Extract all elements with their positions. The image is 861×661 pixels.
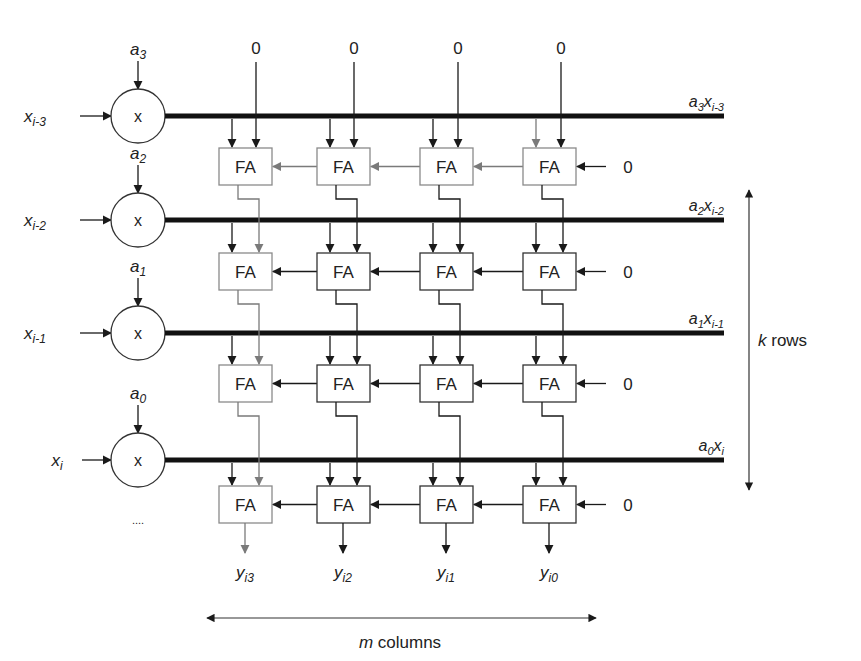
full-adder-cell: FA <box>219 365 272 402</box>
symbol: x <box>50 451 60 470</box>
subscript: 1 <box>139 265 146 279</box>
subscript: i0 <box>549 571 559 585</box>
columns-text: columns <box>373 633 441 652</box>
symbol: a <box>130 257 139 276</box>
symbol: a <box>689 197 698 214</box>
carry-in-zero-label: 0 <box>623 263 632 282</box>
subscript: i3 <box>245 571 255 585</box>
full-adder-cell: FA <box>219 253 272 290</box>
full-adder-label: FA <box>333 375 354 394</box>
full-adder-cell: FA <box>317 148 370 185</box>
subscript: 2 <box>138 152 146 166</box>
subscript: i <box>722 445 725 457</box>
multiply-symbol: x <box>134 325 142 342</box>
rows-text: rows <box>767 331 808 350</box>
product-label: a1xi-1 <box>689 310 724 330</box>
k-rows-label: k rows <box>758 331 807 350</box>
multiply-symbol: x <box>134 212 142 229</box>
zero-input-label: 0 <box>251 39 260 58</box>
array-multiplier-diagram: 0000a3xi-3xa3xi-3FAFAFAFA0a2xi-2xa2xi-2F… <box>0 0 861 661</box>
sum-path-arrow <box>336 290 357 364</box>
carry-in-zero-label: 0 <box>623 375 632 394</box>
symbol: a <box>699 437 708 454</box>
full-adder-cell: FA <box>523 253 576 290</box>
output-label: yi0 <box>539 563 558 585</box>
output-label: yi1 <box>436 563 455 585</box>
zero-input-label: 0 <box>556 39 565 58</box>
full-adder-cell: FA <box>523 148 576 185</box>
subscript: i2 <box>343 571 353 585</box>
product-label: a0xi <box>699 437 725 457</box>
output-label: yi3 <box>235 563 254 585</box>
full-adder-cell: FA <box>420 253 473 290</box>
subscript: i-1 <box>33 332 46 346</box>
subscript: i-2 <box>33 219 47 233</box>
symbol: x <box>23 324 33 343</box>
symbol: a <box>130 384 139 403</box>
input-sample-label: xi <box>50 451 63 473</box>
full-adder-label: FA <box>539 496 560 515</box>
subscript: i-3 <box>33 115 47 129</box>
full-adder-label: FA <box>436 375 457 394</box>
product-label: a2xi-2 <box>689 197 724 217</box>
sum-path-arrow <box>542 290 563 364</box>
coefficient-label: a0 <box>130 384 146 406</box>
full-adder-label: FA <box>436 158 457 177</box>
carry-in-zero-label: 0 <box>623 158 632 177</box>
subscript: i-1 <box>712 318 724 330</box>
subscript: i-2 <box>712 205 724 217</box>
full-adder-cell: FA <box>523 486 576 523</box>
full-adder-cell: FA <box>317 486 370 523</box>
symbol: a <box>689 93 698 110</box>
output-label: yi2 <box>333 563 352 585</box>
subscript: i1 <box>446 571 455 585</box>
full-adder-label: FA <box>333 496 354 515</box>
product-label: a3xi-3 <box>689 93 725 113</box>
subscript: i-3 <box>712 101 725 113</box>
symbol: a <box>689 310 698 327</box>
full-adder-cell: FA <box>317 253 370 290</box>
zero-input-label: 0 <box>349 39 358 58</box>
sum-path-arrow <box>439 290 460 364</box>
full-adder-cell: FA <box>420 365 473 402</box>
symbol: a <box>130 40 139 59</box>
m-columns-label: m columns <box>359 633 441 652</box>
full-adder-cell: FA <box>317 365 370 402</box>
full-adder-label: FA <box>539 158 560 177</box>
m-variable: m <box>359 633 373 652</box>
coefficient-label: a2 <box>130 144 146 166</box>
full-adder-label: FA <box>333 263 354 282</box>
full-adder-label: FA <box>333 158 354 177</box>
full-adder-label: FA <box>235 263 256 282</box>
full-adder-cell: FA <box>420 148 473 185</box>
multiply-symbol: x <box>134 452 142 469</box>
subscript: i <box>60 459 63 473</box>
full-adder-label: FA <box>436 263 457 282</box>
symbol: x <box>23 107 33 126</box>
input-sample-label: xi-3 <box>23 107 46 129</box>
sum-path-arrow <box>439 402 460 485</box>
sum-path-arrow <box>238 402 259 485</box>
carry-in-zero-label: 0 <box>623 496 632 515</box>
subscript: 3 <box>139 48 146 62</box>
sum-path-arrow <box>542 402 563 485</box>
symbol: a <box>130 144 139 163</box>
coefficient-label: a3 <box>130 40 146 62</box>
full-adder-cell: FA <box>219 486 272 523</box>
full-adder-cell: FA <box>420 486 473 523</box>
full-adder-label: FA <box>436 496 457 515</box>
input-sample-label: xi-2 <box>23 211 46 233</box>
full-adder-cell: FA <box>219 148 272 185</box>
subscript: 2 <box>697 205 704 217</box>
ellipsis-label: .... <box>132 514 144 526</box>
full-adder-label: FA <box>539 375 560 394</box>
sum-path-arrow <box>238 290 259 364</box>
full-adder-cell: FA <box>523 365 576 402</box>
full-adder-label: FA <box>235 158 256 177</box>
coefficient-label: a1 <box>130 257 146 279</box>
zero-input-label: 0 <box>453 39 462 58</box>
sum-path-arrow <box>336 402 357 485</box>
full-adder-label: FA <box>235 496 256 515</box>
full-adder-label: FA <box>539 263 560 282</box>
input-sample-label: xi-1 <box>23 324 46 346</box>
